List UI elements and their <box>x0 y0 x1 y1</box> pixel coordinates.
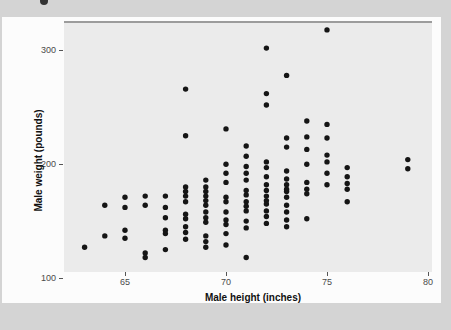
x-tick-mark <box>125 272 126 276</box>
y-tick-label: 100 <box>28 273 56 283</box>
y-tick-label: 300 <box>28 45 56 55</box>
x-tick-mark <box>428 272 429 276</box>
x-tick-label: 65 <box>113 277 137 287</box>
screenshot-root: 65707580 100200300 Male height (inches) … <box>0 0 451 330</box>
x-tick-label: 80 <box>416 277 440 287</box>
plot-panel <box>64 21 432 272</box>
cropped-text-fragment <box>40 0 48 5</box>
x-tick-mark <box>226 272 227 276</box>
x-axis-title: Male height (inches) <box>178 292 328 303</box>
x-tick-label: 70 <box>214 277 238 287</box>
x-tick-mark <box>327 272 328 276</box>
x-tick-label: 75 <box>315 277 339 287</box>
y-tick-mark <box>59 164 63 165</box>
y-tick-mark <box>59 50 63 51</box>
y-tick-mark <box>59 278 63 279</box>
y-axis-title: Male weight (pounds) <box>33 100 44 222</box>
